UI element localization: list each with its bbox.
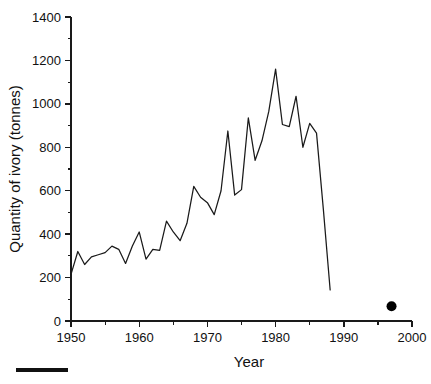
axis-ticks [65, 17, 412, 327]
ivory-quantity-chart: 0200400600800100012001400195019601970198… [0, 0, 431, 384]
data-point-marker [387, 301, 397, 311]
axis-tick-labels: 0200400600800100012001400195019601970198… [32, 10, 426, 346]
scale-bar [16, 368, 68, 372]
y-tick-label: 1400 [32, 10, 61, 25]
x-tick-label: 2000 [398, 330, 427, 345]
y-tick-label: 600 [39, 183, 61, 198]
axes [71, 17, 412, 321]
chart-canvas: 0200400600800100012001400195019601970198… [0, 0, 431, 384]
data-series [71, 69, 397, 311]
data-line-ivory [71, 69, 330, 290]
x-tick-label: 1960 [125, 330, 154, 345]
y-tick-label: 200 [39, 270, 61, 285]
y-tick-label: 0 [54, 314, 61, 329]
x-tick-label: 1970 [193, 330, 222, 345]
x-axis-title: Year [234, 353, 264, 370]
y-axis-title: Quantity of ivory (tonnes) [6, 85, 23, 253]
y-tick-label: 1200 [32, 53, 61, 68]
x-tick-label: 1980 [261, 330, 290, 345]
y-tick-label: 800 [39, 140, 61, 155]
x-tick-label: 1990 [329, 330, 358, 345]
y-tick-label: 400 [39, 227, 61, 242]
axis-spine [71, 17, 412, 321]
x-tick-label: 1950 [57, 330, 86, 345]
y-tick-label: 1000 [32, 96, 61, 111]
